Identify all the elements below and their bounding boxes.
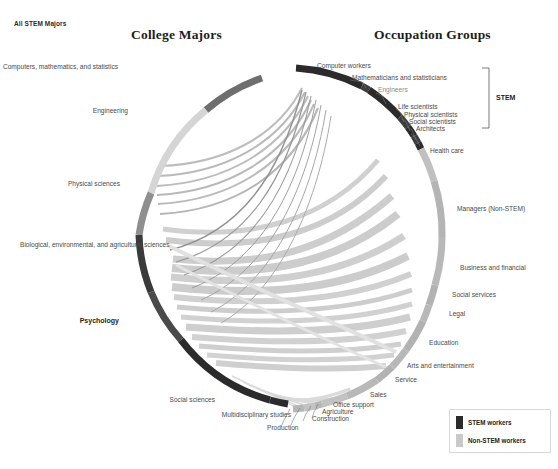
arc-seg-architects [418,143,421,149]
target-label-life-scientists: Life scientists [398,103,438,111]
arc-seg-social-services [429,285,435,305]
arc-seg-education [406,321,423,350]
stem-bracket [482,68,489,128]
source-label-biological-env-ag: Biological, environmental, and agricultu… [20,241,113,249]
legend-swatch-nonstem [456,434,463,447]
target-label-social-services: Social services [452,291,496,299]
target-label-engineers: Engineers [378,86,408,94]
target-label-education: Education [429,339,458,347]
target-label-computer-workers: Computer workers [317,62,371,70]
legend-item-nonstem: Non-STEM workers [456,434,526,447]
ribbon-group [157,88,412,411]
arc-seg-legal [423,305,429,321]
source-label-engineering: Engineering [0,107,128,115]
arc-seg-computers-math-stats [206,78,262,110]
source-label-computers-math-stats: Computers, mathematics, and statistics [0,63,118,71]
target-label-legal: Legal [449,310,465,318]
legend-item-stem: STEM workers [456,416,511,429]
target-label-arts-entertainment: Arts and entertainment [407,362,474,370]
target-label-construction: Construction [312,415,349,423]
page-title-right: Occupation Groups [374,27,491,43]
source-label-physical-sciences: Physical sciences [0,180,120,188]
stem-bracket-label: STEM [496,94,515,101]
page-title-left: College Majors [131,27,222,43]
arc-seg-business-financial [435,237,442,285]
target-label-production: Production [267,424,299,432]
legend-label-stem: STEM workers [468,419,511,426]
target-label-sales: Sales [370,391,387,399]
target-label-health-care: Health care [430,147,464,155]
target-label-managers-nonstem: Managers (Non-STEM) [457,205,525,213]
source-label-psychology: Psychology [0,317,119,325]
corner-note: All STEM Majors [14,20,66,27]
target-label-architects: Architects [416,125,445,133]
arc-seg-agriculture [315,404,322,406]
arc-seg-production [293,408,304,409]
arc-seg-engineers [369,90,400,117]
arc-seg-managers-nonstem [434,181,442,237]
legend-label-nonstem: Non-STEM workers [468,437,526,444]
legend-swatch-stem [456,416,463,429]
source-label-multidisciplinary: Multidisciplinary studies [170,411,291,419]
target-label-mathematicians: Mathematicians and statisticians [352,74,447,82]
source-label-social-sciences: Social sciences [120,396,215,404]
target-label-business-financial: Business and financial [460,264,526,272]
arc-seg-multidisciplinary [270,400,288,404]
arc-seg-mathematicians [362,86,369,90]
arc-seg-physical-sciences [139,193,151,235]
target-label-service: Service [395,376,417,384]
arc-seg-construction [304,406,315,408]
legend: STEM workers Non-STEM workers [449,409,551,453]
chord-diagram-canvas: All STEM Majors College Majors Occupatio… [0,0,558,469]
